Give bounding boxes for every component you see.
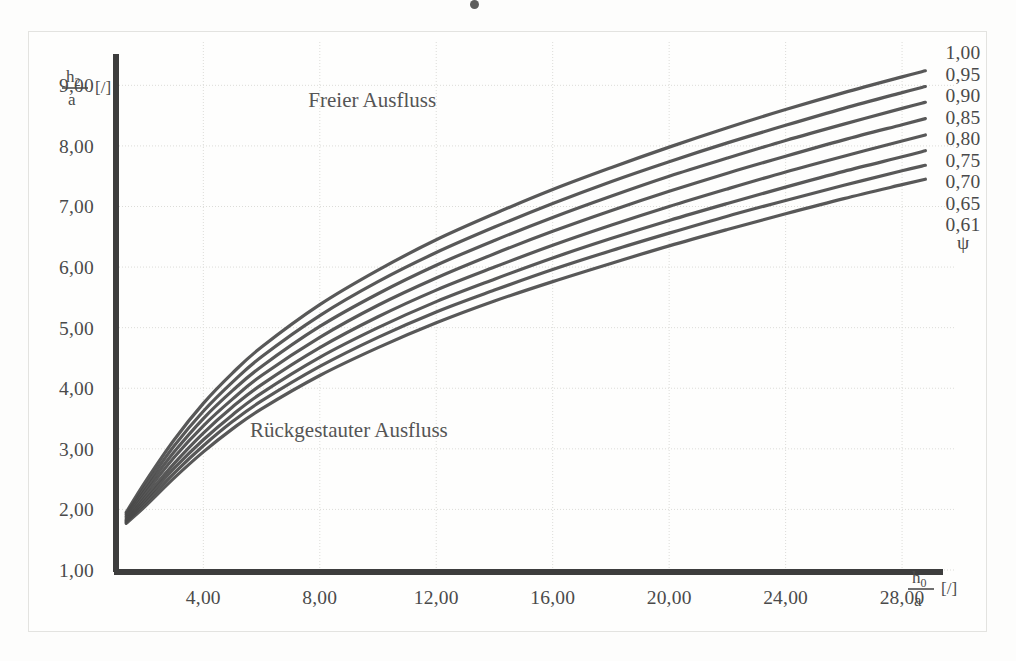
psi-value-label: 0,90 bbox=[946, 85, 981, 106]
psi-value-label: 0,65 bbox=[946, 193, 981, 214]
x-axis-title-unit: [/] bbox=[941, 579, 957, 598]
x-tick-label: 16,00 bbox=[530, 587, 575, 608]
region-annotation: Rückgestauter Ausfluss bbox=[250, 418, 448, 442]
curve-psi-0-80 bbox=[126, 102, 925, 516]
region-annotation: Freier Ausfluss bbox=[308, 88, 436, 112]
scanned-page: 4,008,0012,0016,0020,0024,0028,00 1,002,… bbox=[0, 0, 1016, 661]
x-axis-title-denominator: a bbox=[914, 591, 922, 610]
y-tick-label: 6,00 bbox=[59, 257, 94, 278]
curves-group bbox=[126, 71, 925, 524]
y-tick-label: 3,00 bbox=[59, 439, 94, 460]
x-tick-label: 12,00 bbox=[414, 587, 459, 608]
curve-psi-0-63 bbox=[126, 165, 925, 522]
psi-value-label: 0,85 bbox=[946, 107, 981, 128]
psi-value-label: 0,75 bbox=[946, 150, 981, 171]
x-tick-label: 24,00 bbox=[763, 587, 808, 608]
y-axis-title-unit: [/] bbox=[95, 78, 111, 97]
psi-symbol-label: ψ bbox=[957, 232, 969, 253]
psi-value-labels-group: 1,000,950,900,850,800,750,700,650,61 bbox=[946, 42, 981, 235]
y-tick-label: 4,00 bbox=[59, 378, 94, 399]
psi-value-label: 0,95 bbox=[946, 64, 981, 85]
curve-psi-0-75 bbox=[126, 119, 925, 518]
chart-figure: 4,008,0012,0016,0020,0024,0028,00 1,002,… bbox=[0, 0, 1016, 661]
x-tick-label: 20,00 bbox=[647, 587, 692, 608]
gridlines-group bbox=[116, 42, 955, 570]
y-tick-label: 5,00 bbox=[59, 318, 94, 339]
y-axis-title-numerator: h2 bbox=[66, 67, 81, 89]
y-tick-label: 7,00 bbox=[59, 196, 94, 217]
psi-value-label: 1,00 bbox=[946, 42, 981, 63]
x-tick-label: 4,00 bbox=[186, 587, 221, 608]
psi-value-label: 0,80 bbox=[946, 128, 981, 149]
y-tick-label: 8,00 bbox=[59, 136, 94, 157]
y-tick-labels-group: 1,002,003,004,005,006,007,008,009,00 bbox=[59, 75, 94, 581]
curve-psi-0-61 bbox=[126, 179, 925, 523]
y-tick-label: 2,00 bbox=[59, 499, 94, 520]
curve-psi-0-70 bbox=[126, 135, 925, 520]
curve-psi-0-65 bbox=[126, 151, 925, 521]
y-tick-label: 1,00 bbox=[59, 560, 94, 581]
y-axis-title-denominator: a bbox=[68, 90, 76, 109]
y-axis-title: h2 a [/] bbox=[62, 67, 111, 109]
psi-value-label: 0,70 bbox=[946, 171, 981, 192]
x-tick-label: 8,00 bbox=[302, 587, 337, 608]
x-tick-labels-group: 4,008,0012,0016,0020,0024,0028,00 bbox=[186, 587, 925, 608]
chart-svg: 4,008,0012,0016,0020,0024,0028,00 1,002,… bbox=[0, 0, 1016, 661]
